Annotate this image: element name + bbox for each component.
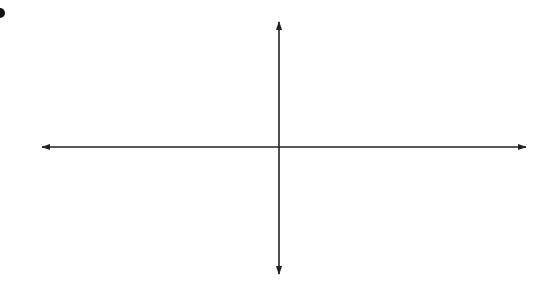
sine-graph — [0, 0, 547, 294]
part-label-fragment — [0, 8, 5, 18]
